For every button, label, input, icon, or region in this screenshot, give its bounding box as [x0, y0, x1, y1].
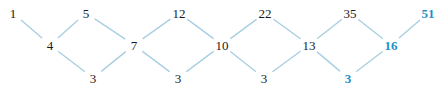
- graph-edge: [274, 19, 300, 38]
- graph-edge: [102, 52, 126, 71]
- graph-node-3: 3: [344, 72, 353, 85]
- graph-edge: [188, 20, 213, 39]
- graph-node-1: 1: [9, 7, 18, 20]
- graph-edge: [231, 52, 256, 71]
- graph-edge: [187, 52, 213, 72]
- graph-node-10: 10: [215, 39, 230, 52]
- graph-node-3: 3: [174, 72, 183, 85]
- graph-edge: [59, 52, 85, 72]
- graph-edge: [21, 20, 41, 38]
- lattice-diagram: 1453712310223133531651: [0, 0, 444, 93]
- graph-node-3: 3: [260, 72, 269, 85]
- graph-edge: [399, 20, 419, 38]
- graph-edge: [58, 20, 78, 37]
- graph-node-12: 12: [172, 7, 187, 20]
- graph-edge: [143, 52, 169, 72]
- graph-node-3: 3: [89, 72, 98, 85]
- graph-edge: [359, 20, 383, 38]
- graph-node-22: 22: [258, 7, 273, 20]
- graph-node-16: 16: [384, 39, 399, 52]
- graph-node-35: 35: [343, 7, 358, 20]
- graph-edge: [318, 20, 342, 38]
- graph-edge: [357, 52, 383, 72]
- graph-node-13: 13: [302, 39, 317, 52]
- graph-node-7: 7: [130, 39, 139, 52]
- graph-edge: [143, 19, 170, 38]
- graph-node-5: 5: [82, 7, 91, 20]
- graph-edge: [95, 19, 125, 39]
- graph-edge: [231, 20, 256, 39]
- graph-edge: [317, 52, 339, 71]
- graph-node-4: 4: [46, 39, 55, 52]
- graph-edge: [273, 52, 300, 72]
- graph-node-51: 51: [421, 7, 436, 20]
